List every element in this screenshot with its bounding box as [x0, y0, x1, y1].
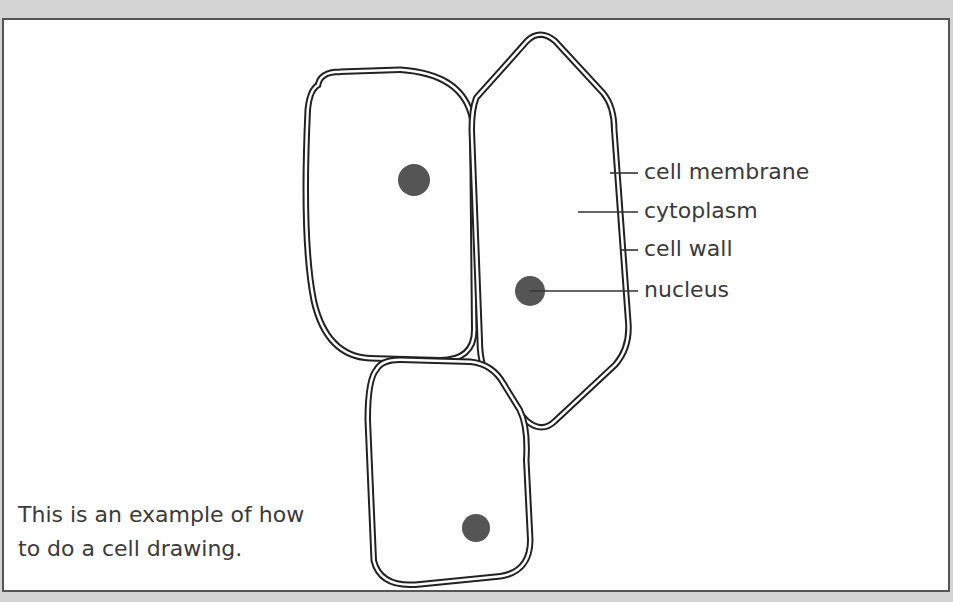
bottom-cell [372, 364, 526, 581]
nucleus-bottom [462, 514, 490, 542]
nucleus-top-left [398, 164, 430, 196]
right-hexagonal-cell [476, 39, 624, 423]
diagram-caption: This is an example of how to do a cell d… [18, 498, 304, 566]
caption-line-2: to do a cell drawing. [18, 532, 304, 566]
caption-line-1: This is an example of how [18, 498, 304, 532]
label-cell-wall: cell wall [644, 238, 733, 260]
top-left-cell [310, 74, 470, 356]
label-cytoplasm: cytoplasm [644, 200, 758, 222]
label-nucleus: nucleus [644, 279, 729, 301]
label-cell-membrane: cell membrane [644, 161, 809, 183]
